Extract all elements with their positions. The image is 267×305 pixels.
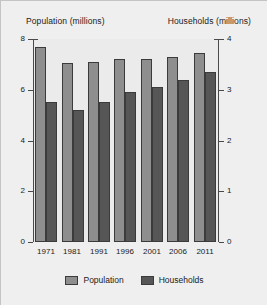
bar-population-1996 bbox=[114, 59, 125, 242]
right-tick-label-3: 3 bbox=[227, 86, 231, 94]
category-label-2006: 2006 bbox=[165, 247, 191, 256]
bar-households-1996 bbox=[125, 92, 136, 242]
left-tick-label-6: 6 bbox=[21, 86, 25, 94]
right-tick-1 bbox=[219, 191, 224, 192]
left-spine-cap bbox=[33, 39, 38, 40]
right-tick-3 bbox=[219, 90, 224, 91]
right-spine-cap bbox=[214, 39, 219, 40]
left-axis-spine bbox=[33, 39, 34, 242]
bar-households-1971 bbox=[46, 102, 57, 242]
category-label-1996: 1996 bbox=[112, 247, 138, 256]
left-tick-label-0: 0 bbox=[21, 238, 25, 246]
left-tick-label-4: 4 bbox=[21, 137, 25, 145]
bar-population-1991 bbox=[88, 62, 99, 242]
legend-swatch-population-icon bbox=[65, 276, 78, 285]
bar-households-1991 bbox=[99, 102, 110, 242]
right-tick-4 bbox=[219, 39, 224, 40]
legend-swatch-households-icon bbox=[141, 276, 154, 285]
bar-households-2011 bbox=[205, 72, 216, 242]
bar-population-1971 bbox=[35, 47, 46, 242]
chart-figure: Population (millions) Households (millio… bbox=[0, 0, 267, 305]
legend-entry-population[interactable]: Population bbox=[65, 275, 123, 285]
category-label-1991: 1991 bbox=[86, 247, 112, 256]
legend-label-households: Households bbox=[159, 275, 204, 285]
bar-households-2006 bbox=[178, 80, 189, 242]
left-tick-label-8: 8 bbox=[21, 35, 25, 43]
left-tick-label-2: 2 bbox=[21, 187, 25, 195]
left-axis-title: Population (millions) bbox=[26, 16, 105, 26]
right-tick-2 bbox=[219, 141, 224, 142]
category-label-1971: 1971 bbox=[33, 247, 59, 256]
bar-population-2011 bbox=[194, 53, 205, 242]
right-tick-0 bbox=[219, 242, 224, 243]
left-tick-2 bbox=[28, 191, 33, 192]
legend-label-population: Population bbox=[83, 275, 123, 285]
bar-population-2001 bbox=[141, 59, 152, 242]
chart-legend: PopulationHouseholds bbox=[1, 275, 267, 285]
category-label-2001: 2001 bbox=[139, 247, 165, 256]
bar-population-2006 bbox=[167, 57, 178, 242]
right-tick-label-0: 0 bbox=[227, 238, 231, 246]
bar-households-1981 bbox=[73, 110, 84, 242]
right-axis-title: Households (millions) bbox=[168, 16, 251, 26]
right-tick-label-1: 1 bbox=[227, 187, 231, 195]
left-tick-0 bbox=[28, 242, 33, 243]
bar-households-2001 bbox=[152, 87, 163, 242]
category-label-2011: 2011 bbox=[192, 247, 218, 256]
left-tick-6 bbox=[28, 90, 33, 91]
legend-entry-households[interactable]: Households bbox=[141, 275, 204, 285]
left-tick-4 bbox=[28, 141, 33, 142]
category-label-1981: 1981 bbox=[59, 247, 85, 256]
bar-population-1981 bbox=[62, 63, 73, 242]
right-tick-label-2: 2 bbox=[227, 137, 231, 145]
right-tick-label-4: 4 bbox=[227, 35, 231, 43]
